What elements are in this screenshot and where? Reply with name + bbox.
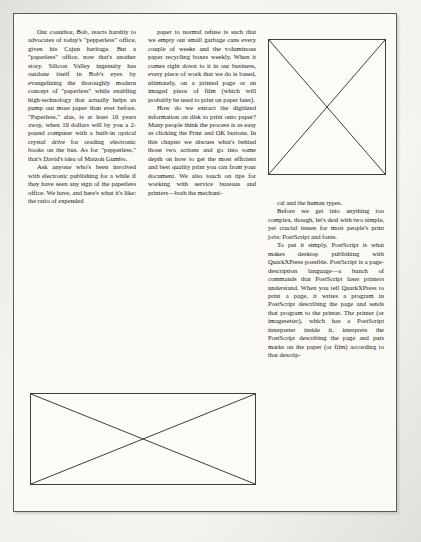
x-cross-icon <box>269 40 385 174</box>
scanned-page: Our coauthor, Bob, reacts harshly to adv… <box>0 0 421 542</box>
text-column-3: cal and the human types. Before we get i… <box>268 28 376 498</box>
paragraph: Our coauthor, Bob, reacts harshly to adv… <box>28 28 136 163</box>
page-content-area: Our coauthor, Bob, reacts harshly to adv… <box>14 14 396 511</box>
image-placeholder-top-right <box>268 39 386 175</box>
paragraph: cal and the human types. <box>268 199 384 207</box>
paragraph: Before we get into anything too complex,… <box>268 207 384 241</box>
paragraph: How do we extract the digitized informat… <box>148 104 256 197</box>
text-column-2: paper to normal refuse is such that we e… <box>148 28 256 197</box>
x-cross-icon <box>31 394 255 484</box>
paragraph: Ask anyone who's been involved with elec… <box>28 163 136 205</box>
paragraph: paper to normal refuse is such that we e… <box>148 28 256 104</box>
paragraph: To put it simply, PostScript is what mak… <box>268 241 384 359</box>
column-3-body: cal and the human types. Before we get i… <box>268 199 384 360</box>
image-placeholder-bottom-wide <box>30 393 256 485</box>
text-column-1: Our coauthor, Bob, reacts harshly to adv… <box>28 28 136 206</box>
page-sheet: Our coauthor, Bob, reacts harshly to adv… <box>13 13 397 512</box>
